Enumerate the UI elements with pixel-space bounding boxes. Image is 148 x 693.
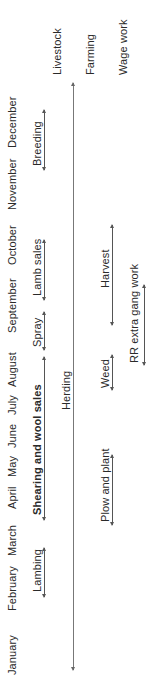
category-farming: Farming	[84, 34, 96, 75]
month-january: January	[6, 635, 18, 675]
month-april: April	[6, 486, 18, 509]
activity-rr-extra-gang-work: RR extra gang work	[128, 264, 140, 363]
month-december: December	[6, 96, 18, 148]
plow-range-arrow	[112, 455, 113, 525]
shearing-range-arrow	[44, 357, 45, 520]
activity-spray: Spray	[31, 318, 43, 347]
herding-range-arrow	[73, 83, 74, 670]
month-october: October	[6, 225, 18, 265]
weed-range-arrow	[112, 355, 113, 390]
activity-lamb-sales: Lamb sales	[31, 239, 43, 296]
month-november: November	[6, 158, 18, 210]
month-july: July	[6, 395, 18, 415]
activity-weed: Weed	[99, 359, 111, 388]
harvest-range-arrow	[112, 225, 113, 325]
rr-range-arrow	[144, 285, 145, 365]
activity-breeding: Breeding	[31, 121, 43, 166]
month-june: June	[6, 424, 18, 448]
activity-shearing-and-wool-sales: Shearing and wool sales	[31, 384, 43, 515]
month-may: May	[6, 456, 18, 477]
category-livestock: Livestock	[51, 28, 63, 75]
activity-plow-and-plant: Plow and plant	[99, 448, 111, 522]
month-august: August	[6, 352, 18, 387]
month-september: September	[6, 278, 18, 333]
spray-range-arrow	[44, 312, 45, 350]
month-february: February	[6, 566, 18, 611]
activity-herding: Herding	[60, 371, 72, 410]
activity-lambing: Lambing	[31, 549, 43, 592]
seasonal-calendar-diagram: January February March April May June Ju…	[0, 0, 148, 693]
category-wage-work: Wage work	[117, 19, 129, 75]
activity-harvest: Harvest	[99, 249, 111, 288]
month-march: March	[6, 525, 18, 556]
breeding-range-arrow	[44, 110, 45, 170]
lambing-range-arrow	[44, 548, 45, 597]
lamb-sales-range-arrow	[44, 240, 45, 300]
